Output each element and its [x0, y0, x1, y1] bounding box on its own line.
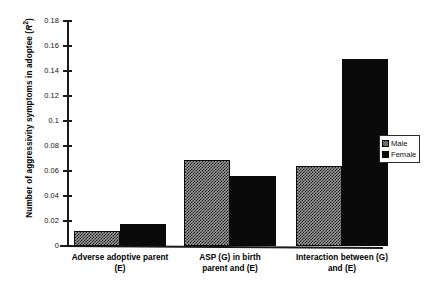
bar-chart: Number of aggressivity symptoms in adopt… [0, 0, 446, 295]
y-axis-tick-label: 0.1 [19, 116, 59, 125]
plot-area [68, 21, 383, 246]
bar-male-3 [296, 166, 342, 246]
bar-female-2 [230, 176, 276, 246]
x-axis-category-label-line: Adverse adoptive parent [60, 252, 180, 263]
bar-female-1 [120, 224, 166, 247]
bar-group [74, 21, 166, 246]
x-axis-category-label-line: parent and (E) [170, 263, 290, 274]
y-axis-tick-label: 0.12 [19, 91, 59, 100]
y-axis-tick-label: 0.04 [19, 191, 59, 200]
x-axis-category-label: Interaction between (G)and (E) [282, 252, 402, 274]
bar-male-1 [74, 231, 120, 246]
legend-swatch-female-icon [382, 151, 389, 158]
y-axis-title-italic: R [25, 25, 34, 31]
bar-male-2 [184, 160, 230, 246]
legend-item-female: Female [382, 149, 416, 160]
legend-swatch-male-icon [382, 140, 389, 147]
bar-group [296, 21, 388, 246]
x-axis-category-label-line: and (E) [282, 263, 402, 274]
x-axis-category-label-line: (E) [60, 263, 180, 274]
y-axis-tick-label: 0.06 [19, 166, 59, 175]
x-axis-category-label-line: ASP (G) in birth [170, 252, 290, 263]
y-axis-tick-label: 0.16 [19, 41, 59, 50]
legend-label-female: Female [391, 150, 416, 159]
y-axis-tick-label: 0.14 [19, 66, 59, 75]
y-axis-tick-label: 0.08 [19, 141, 59, 150]
bar-group [184, 21, 276, 246]
legend-item-male: Male [382, 138, 416, 149]
legend-label-male: Male [391, 139, 407, 148]
x-axis-category-label: ASP (G) in birthparent and (E) [170, 252, 290, 274]
legend: Male Female [379, 135, 420, 163]
x-axis-category-label-line: Interaction between (G) [282, 252, 402, 263]
x-axis-category-label: Adverse adoptive parent(E) [60, 252, 180, 274]
y-axis-tick-label: 0 [19, 241, 59, 250]
y-axis-tick-label: 0.02 [19, 216, 59, 225]
y-axis-tick-label: 0.18 [19, 16, 59, 25]
